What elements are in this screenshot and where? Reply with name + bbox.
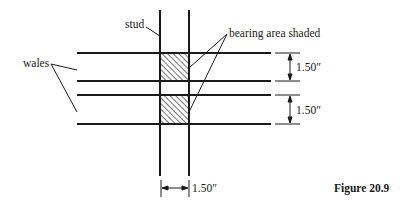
bearing-areas bbox=[161, 53, 189, 124]
leader-lines bbox=[51, 27, 227, 112]
wales-leader-lower bbox=[51, 64, 77, 112]
dimension-label-stud-width: 1.50″ bbox=[192, 182, 217, 194]
stud-label: stud bbox=[125, 18, 144, 30]
bearing-area-lower bbox=[161, 95, 189, 124]
bearing-leader-lower bbox=[189, 34, 227, 112]
wale-stud-bearing-diagram: 1.50″ 1.50″ 1.50″ stud wales bearing are… bbox=[0, 0, 400, 210]
stud-leader bbox=[146, 27, 160, 36]
bearing-area-upper bbox=[161, 53, 189, 81]
wales-label: wales bbox=[23, 57, 50, 69]
bearing-area-label: bearing area shaded bbox=[229, 27, 321, 40]
dimension-label-bottom: 1.50″ bbox=[296, 104, 321, 116]
wales-leader-upper bbox=[51, 64, 77, 70]
figure-caption: Figure 20.9 bbox=[334, 182, 390, 195]
bearing-leader-upper bbox=[189, 34, 227, 68]
stud-width-dimension bbox=[161, 180, 189, 197]
dimension-label-top: 1.50″ bbox=[296, 61, 321, 73]
stud bbox=[160, 10, 189, 176]
